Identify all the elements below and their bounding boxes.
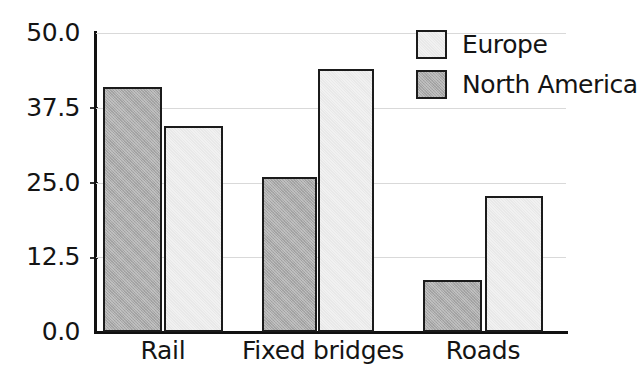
legend-swatch-europe-icon xyxy=(416,30,447,59)
y-axis-tick-label-0: 0.0 xyxy=(42,319,80,344)
bar-roads-north-america xyxy=(423,280,482,332)
bar-chart: 50.0 37.5 25.0 12.5 0.0 Rail Fixed bridg… xyxy=(0,0,637,383)
x-axis-label-roads: Roads xyxy=(423,338,543,363)
bar-roads-europe xyxy=(485,196,543,332)
y-axis-tick-label-25: 25.0 xyxy=(26,170,80,195)
bar-fixed-bridges-europe xyxy=(318,69,374,332)
y-axis-tick-label-37_5: 37.5 xyxy=(26,95,80,120)
bar-rail-europe xyxy=(164,126,223,332)
legend-label-europe: Europe xyxy=(462,28,548,61)
y-axis-tick-label-50: 50.0 xyxy=(26,20,80,45)
bar-rail-north-america xyxy=(103,87,162,332)
x-axis-label-rail: Rail xyxy=(103,338,223,363)
x-axis-label-fixed-bridges: Fixed bridges xyxy=(242,338,392,363)
legend-swatch-north-america-icon xyxy=(416,70,447,99)
bar-fixed-bridges-north-america xyxy=(262,177,317,332)
y-axis-tick-label-12_5: 12.5 xyxy=(26,244,80,269)
legend-label-north-america: North America xyxy=(462,68,637,101)
